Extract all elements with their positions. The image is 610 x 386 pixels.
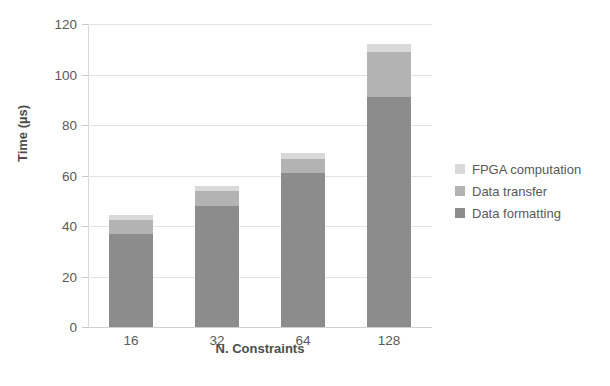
y-axis-tick xyxy=(82,176,88,177)
y-axis-tick xyxy=(82,226,88,227)
y-axis-tick xyxy=(82,327,88,328)
legend-item: Data transfer xyxy=(455,180,605,202)
legend-label: FPGA computation xyxy=(472,162,581,177)
y-axis-label: 20 xyxy=(62,269,77,284)
y-axis-label: 40 xyxy=(62,219,77,234)
bar-64 xyxy=(281,153,325,327)
bar-32 xyxy=(195,186,239,327)
bar-16 xyxy=(109,215,153,327)
bar-segment xyxy=(281,159,325,173)
legend-swatch-icon xyxy=(455,186,465,196)
y-axis-title: Time (µs) xyxy=(15,74,30,194)
bar-segment xyxy=(367,97,411,327)
legend-item: Data formatting xyxy=(455,202,605,224)
bar-segment xyxy=(281,173,325,327)
legend-swatch-icon xyxy=(455,208,465,218)
y-axis-label: 120 xyxy=(54,17,77,32)
y-axis-label: 60 xyxy=(62,168,77,183)
y-axis-tick xyxy=(82,125,88,126)
bar-128 xyxy=(367,44,411,327)
bar-segment xyxy=(195,191,239,206)
y-axis-tick xyxy=(82,277,88,278)
plot-area: 020406080100120163264128 xyxy=(88,24,432,327)
legend-label: Data formatting xyxy=(472,206,561,221)
x-axis-title: N. Constraints xyxy=(88,341,432,356)
bar-segment xyxy=(367,52,411,97)
bar-segment xyxy=(195,206,239,327)
y-axis-label: 100 xyxy=(54,67,77,82)
legend-swatch-icon xyxy=(455,164,465,174)
legend-label: Data transfer xyxy=(472,184,547,199)
stacked-bar-chart: Time (µs) 020406080100120163264128 N. Co… xyxy=(0,0,610,386)
y-axis-tick xyxy=(82,24,88,25)
chart-legend: FPGA computationData transferData format… xyxy=(455,158,605,224)
bar-segment xyxy=(109,220,153,234)
y-gridline xyxy=(88,24,432,25)
bar-segment xyxy=(109,234,153,327)
y-gridline xyxy=(88,327,432,328)
y-axis-tick xyxy=(82,75,88,76)
legend-item: FPGA computation xyxy=(455,158,605,180)
y-axis-label: 0 xyxy=(69,320,77,335)
y-axis-label: 80 xyxy=(62,118,77,133)
bar-segment xyxy=(367,44,411,52)
